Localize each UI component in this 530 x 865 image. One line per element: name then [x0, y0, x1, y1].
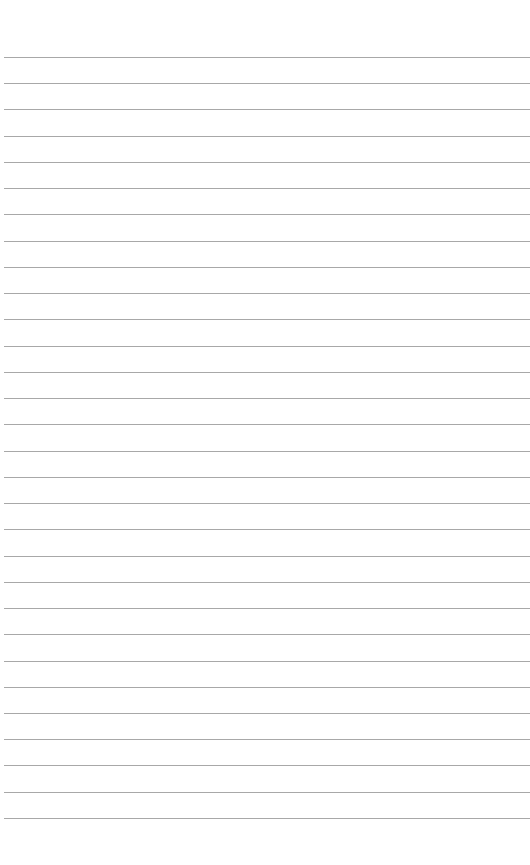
- ruled-line: [4, 293, 530, 294]
- ruled-line: [4, 398, 530, 399]
- ruled-line: [4, 57, 530, 58]
- ruled-line: [4, 739, 530, 740]
- ruled-line: [4, 792, 530, 793]
- ruled-line: [4, 109, 530, 110]
- ruled-line: [4, 451, 530, 452]
- ruled-line: [4, 372, 530, 373]
- ruled-line: [4, 818, 530, 819]
- ruled-line: [4, 346, 530, 347]
- ruled-line: [4, 713, 530, 714]
- ruled-line: [4, 424, 530, 425]
- ruled-line: [4, 661, 530, 662]
- lined-paper-page: [0, 0, 530, 865]
- ruled-line: [4, 556, 530, 557]
- ruled-line: [4, 634, 530, 635]
- ruled-line: [4, 214, 530, 215]
- ruled-line: [4, 188, 530, 189]
- ruled-line: [4, 687, 530, 688]
- ruled-line: [4, 582, 530, 583]
- ruled-line: [4, 162, 530, 163]
- ruled-line: [4, 529, 530, 530]
- ruled-line: [4, 83, 530, 84]
- ruled-line: [4, 267, 530, 268]
- ruled-line: [4, 765, 530, 766]
- ruled-line: [4, 241, 530, 242]
- ruled-line: [4, 503, 530, 504]
- ruled-line: [4, 477, 530, 478]
- ruled-line: [4, 608, 530, 609]
- ruled-line: [4, 319, 530, 320]
- ruled-line: [4, 136, 530, 137]
